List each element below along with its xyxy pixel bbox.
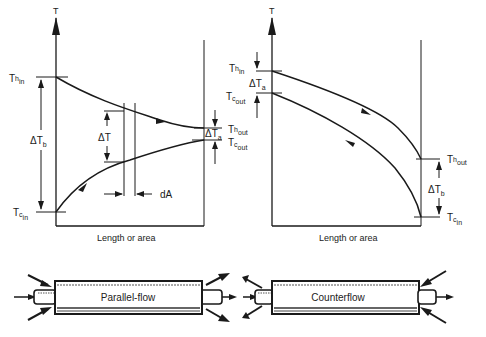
- delta-ta-label: ΔTa: [249, 78, 266, 91]
- th-out-label: Thout: [228, 124, 248, 136]
- delta-ta-label: ΔTa: [205, 128, 222, 141]
- inner-outlet-arrow-icon: [446, 294, 454, 300]
- cold-fluid-curve: [56, 140, 204, 212]
- shell-outlet-arrow-icon: [242, 312, 250, 319]
- x-axis-label: Length or area: [319, 233, 378, 243]
- tc-in-label: Tcin: [13, 207, 28, 221]
- delta-t-label: ΔT: [98, 132, 111, 143]
- shell-outlet-arrow-icon: [218, 273, 230, 281]
- delta-tb-label: ΔTb: [428, 184, 445, 197]
- hot-fluid-curve: [272, 71, 421, 159]
- y-axis-label: T: [269, 6, 275, 16]
- counterflow-chart: T ΔTa ΔTb Thin Tcout Thout Tcin Length o…: [226, 6, 467, 243]
- x-axis-label: Length or area: [97, 233, 156, 243]
- th-out-label: Thout: [447, 154, 467, 166]
- dA-label: dA: [160, 189, 173, 200]
- y-axis-arrow-icon: [52, 17, 60, 35]
- shell-inlet-arrow-icon: [40, 280, 52, 287]
- th-in-label: Thin: [229, 63, 245, 75]
- th-in-label: Thin: [9, 73, 25, 85]
- y-axis-label: T: [53, 6, 59, 16]
- tube-label: Counterflow: [311, 292, 365, 303]
- parallel-flow-tube: Parallel-flow: [14, 273, 237, 322]
- hot-fluid-curve: [56, 77, 204, 128]
- cold-flow-arrow-icon: [345, 140, 355, 147]
- shell-outlet-arrow-icon: [218, 314, 230, 322]
- cold-fluid-curve: [272, 93, 421, 217]
- inner-outlet-arrow-icon: [229, 294, 237, 300]
- tube-label: Parallel-flow: [101, 292, 156, 303]
- heat-exchanger-diagram: T ΔTb ΔT dA: [0, 0, 486, 337]
- shell-inlet-arrow-icon: [40, 307, 52, 315]
- tc-in-label: Tcin: [447, 212, 462, 226]
- tc-out-label: Tcout: [228, 137, 247, 151]
- tc-out-label: Tcout: [226, 91, 245, 105]
- counterflow-tube: Counterflow: [242, 271, 454, 323]
- y-axis-arrow-icon: [268, 17, 276, 35]
- parallel-flow-chart: T ΔTb ΔT dA: [9, 6, 248, 243]
